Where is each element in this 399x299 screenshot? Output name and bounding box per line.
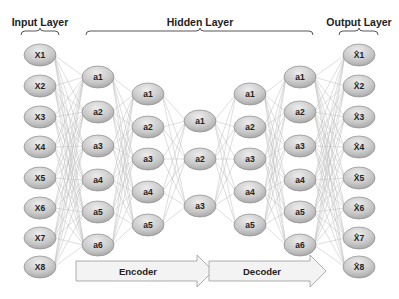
hidden-1-node: a6 bbox=[82, 234, 114, 256]
edge-line bbox=[264, 77, 286, 94]
hidden-1-node: a1 bbox=[82, 66, 114, 88]
output-node: X̂2 bbox=[343, 75, 375, 97]
edge-line bbox=[314, 146, 345, 147]
node-label: X3 bbox=[35, 112, 46, 122]
node-label: a5 bbox=[245, 220, 255, 230]
hidden-4-node: a4 bbox=[234, 181, 266, 203]
edge-line bbox=[214, 94, 236, 121]
node-label: a2 bbox=[143, 122, 153, 132]
output-node: X̂4 bbox=[343, 136, 375, 158]
edge-line bbox=[214, 159, 236, 225]
hidden-5-node: a1 bbox=[284, 66, 316, 88]
node-label: a4 bbox=[93, 175, 103, 185]
node-label: X1 bbox=[35, 50, 46, 60]
edge-line bbox=[314, 86, 345, 112]
hidden-4-node: a3 bbox=[234, 148, 266, 170]
hidden-layer-brace bbox=[86, 28, 313, 35]
node-label: a2 bbox=[295, 107, 305, 117]
input-layer-brace bbox=[21, 28, 59, 35]
hidden-5-node: a2 bbox=[284, 101, 316, 123]
input-node: X5 bbox=[24, 167, 56, 189]
node-label: a3 bbox=[245, 154, 255, 164]
node-label: a1 bbox=[245, 89, 255, 99]
hidden-4-node: a1 bbox=[234, 83, 266, 105]
bottleneck-node: a1 bbox=[184, 110, 216, 132]
edge-line bbox=[214, 121, 236, 225]
node-label: a1 bbox=[195, 116, 205, 126]
autoencoder-diagram: Input Layer Hidden Layer Output Layer X1… bbox=[0, 0, 399, 299]
output-node: X̂5 bbox=[343, 167, 375, 189]
node-label: a1 bbox=[93, 72, 103, 82]
edge-line bbox=[54, 77, 84, 178]
edge-line bbox=[112, 127, 134, 245]
hidden-1-node: a4 bbox=[82, 169, 114, 191]
input-node: X6 bbox=[24, 197, 56, 219]
edge-line bbox=[214, 159, 236, 192]
node-label: a2 bbox=[93, 107, 103, 117]
edge-line bbox=[54, 146, 84, 147]
input-node: X8 bbox=[24, 256, 56, 278]
edge-line bbox=[112, 94, 134, 245]
node-label: X̂4 bbox=[354, 142, 365, 152]
node-label: a4 bbox=[143, 187, 153, 197]
encoder-label: Encoder bbox=[119, 266, 157, 277]
node-label: X6 bbox=[35, 203, 46, 213]
edge-line bbox=[314, 112, 345, 178]
hidden-5-node: a4 bbox=[284, 169, 316, 191]
node-label: X̂3 bbox=[354, 112, 365, 122]
edge-line bbox=[54, 146, 84, 208]
node-label: a5 bbox=[93, 207, 103, 217]
hidden-5-node: a6 bbox=[284, 234, 316, 256]
node-label: a3 bbox=[93, 141, 103, 151]
node-label: a4 bbox=[245, 187, 255, 197]
node-label: X̂7 bbox=[354, 233, 365, 243]
input-node: X1 bbox=[24, 44, 56, 66]
edge-line bbox=[314, 146, 345, 208]
hidden-layer-title: Hidden Layer bbox=[167, 16, 234, 28]
hidden-1-node: a3 bbox=[82, 135, 114, 157]
output-layer-title: Output Layer bbox=[326, 16, 391, 28]
node-label: a5 bbox=[295, 207, 305, 217]
hidden-1-node: a2 bbox=[82, 101, 114, 123]
node-label: X7 bbox=[35, 233, 46, 243]
hidden-2-node: a1 bbox=[132, 83, 164, 105]
hidden-4-node: a5 bbox=[234, 214, 266, 236]
node-label: X̂6 bbox=[354, 203, 365, 213]
edge-line bbox=[264, 112, 286, 225]
node-label: a2 bbox=[245, 122, 255, 132]
node-label: a3 bbox=[195, 201, 205, 211]
edge-line bbox=[54, 86, 84, 112]
node-label: a1 bbox=[295, 72, 305, 82]
input-node: X4 bbox=[24, 136, 56, 158]
output-node: X̂7 bbox=[343, 227, 375, 249]
hidden-4-node: a2 bbox=[234, 116, 266, 138]
node-label: X5 bbox=[35, 173, 46, 183]
hidden-5-node: a3 bbox=[284, 135, 316, 157]
node-label: a4 bbox=[295, 175, 305, 185]
node-label: a1 bbox=[143, 89, 153, 99]
hidden-2-node: a4 bbox=[132, 181, 164, 203]
node-label: X̂5 bbox=[354, 173, 365, 183]
edge-line bbox=[162, 94, 186, 206]
output-node: X̂3 bbox=[343, 106, 375, 128]
edge-line bbox=[162, 159, 186, 225]
edge-line bbox=[162, 159, 186, 192]
decoder-label: Decoder bbox=[243, 266, 281, 277]
edge-line bbox=[264, 94, 286, 112]
edge-line bbox=[162, 121, 186, 225]
edge-line bbox=[112, 77, 134, 94]
node-label: X̂1 bbox=[354, 50, 365, 60]
node-label: a2 bbox=[195, 154, 205, 164]
node-label: a6 bbox=[93, 240, 103, 250]
node-label: X4 bbox=[35, 142, 46, 152]
output-node: X̂6 bbox=[343, 197, 375, 219]
input-node: X2 bbox=[24, 75, 56, 97]
edge-line bbox=[162, 94, 186, 121]
input-node: X3 bbox=[24, 106, 56, 128]
hidden-2-node: a3 bbox=[132, 148, 164, 170]
node-label: X2 bbox=[35, 81, 46, 91]
output-node: X̂8 bbox=[343, 256, 375, 278]
hidden-1-node: a5 bbox=[82, 201, 114, 223]
node-label: a3 bbox=[143, 154, 153, 164]
node-label: X8 bbox=[35, 262, 46, 272]
